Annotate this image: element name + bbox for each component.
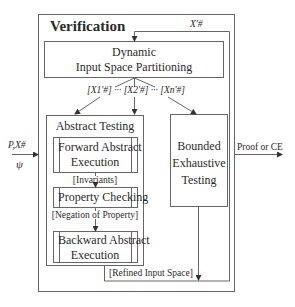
partitions-label: [X1'#] ··· [X2'#] ··· [Xn'#] bbox=[84, 85, 188, 95]
dynamic-partitioning-label: Dynamic Input Space Partitioning bbox=[44, 45, 224, 75]
negation-label: [Negation of Property] bbox=[46, 210, 144, 220]
abstract-testing-title: Abstract Testing bbox=[46, 119, 144, 134]
verification-title: Verification bbox=[50, 18, 125, 35]
input-psi-label: ψ bbox=[16, 158, 23, 170]
forward-abstract-execution: Forward Abstract Execution bbox=[58, 140, 132, 170]
input-p-x-label: P,X# bbox=[8, 140, 26, 150]
output-label: Proof or CE bbox=[237, 142, 283, 152]
property-checking: Property Checking bbox=[58, 190, 132, 205]
backward-abstract-execution: Backward Abstract Execution bbox=[58, 233, 132, 263]
feedback-label: X'# bbox=[190, 19, 203, 29]
refined-input-label: [Refined Input Space] bbox=[104, 268, 198, 278]
invariants-label: [Invariants] bbox=[46, 175, 144, 185]
bounded-exhaustive-testing: Bounded Exhaustive Testing bbox=[170, 138, 228, 189]
